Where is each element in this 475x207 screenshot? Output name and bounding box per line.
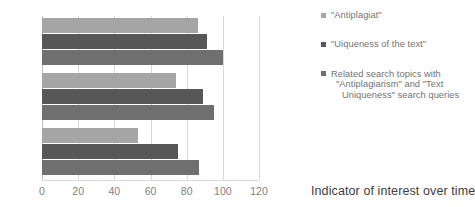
x-tick-label-100: 100 [214,185,232,197]
bar-2021-series-1 [42,18,198,33]
legend-label-line-2: "Antiplagiarism" and "Text [331,79,461,89]
x-tick-label-20: 20 [72,185,84,197]
legend-item-label: "Antiplagiat" [331,10,382,20]
bar-2020-series-3 [42,105,214,120]
legend-label-line-3: Uniqueness" search queries [331,90,461,100]
legend-swatch-icon [321,42,326,47]
y-axis-label-2020: 2020 [53,91,93,103]
x-axis-tick-labels: 020406080100120 [42,185,259,201]
x-tick-label-40: 40 [108,185,120,197]
bar-2019-series-3 [42,160,199,175]
legend-item-label: Related search topics with "Antiplagiari… [331,69,461,100]
y-axis-label-2021: 2021 [53,36,93,48]
legend-item-related-search-topics[interactable]: Related search topics with "Antiplagiari… [321,69,461,100]
gridline-120 [259,16,260,180]
x-tick-label-60: 60 [145,185,157,197]
x-tick-label-80: 80 [181,185,193,197]
x-axis-baseline [42,180,259,181]
legend-item-uniqueness-of-the-text[interactable]: "Uiqueness of the text" [321,39,461,49]
y-axis-label-2019: 2019 [53,146,93,158]
legend-swatch-icon [321,71,326,76]
bar-2021-series-3 [42,50,223,65]
bar-2019-series-1 [42,128,138,143]
x-tick-label-120: 120 [250,185,268,197]
chart-legend: "Antiplagiat" "Uiqueness of the text" Re… [321,10,461,100]
legend-item-antiplagiat[interactable]: "Antiplagiat" [321,10,461,20]
legend-item-label: "Uiqueness of the text" [331,39,426,49]
legend-label-line-1: Related search topics with [331,69,461,79]
x-axis-title: Indicator of interest over time [311,184,475,198]
x-tick-label-0: 0 [39,185,45,197]
plot-wrapper: 2021 2020 2019 020406080100120 [0,0,300,207]
bar-2020-series-1 [42,73,176,88]
legend-swatch-icon [321,13,326,18]
